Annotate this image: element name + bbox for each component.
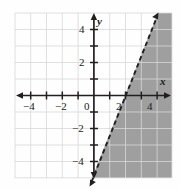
x-tick-label--2: −2: [55, 101, 67, 112]
x-tick-label-4: 4: [147, 101, 153, 112]
y-axis-label: y: [97, 16, 102, 27]
coordinate-plane-svg: [0, 0, 180, 189]
x-tick-label-2: 2: [116, 101, 122, 112]
x-tick-label--4: −4: [23, 101, 35, 112]
y-tick-label--4: −4: [72, 156, 84, 167]
y-tick-label-2: 2: [79, 57, 85, 68]
x-axis-label: x: [160, 76, 166, 87]
y-tick-label-4: 4: [79, 24, 85, 35]
graph-figure: x y 0 −4 −2 2 4 4 2 −2 −4: [0, 0, 180, 189]
y-tick-label--2: −2: [72, 123, 84, 134]
origin-label: 0: [84, 101, 90, 112]
